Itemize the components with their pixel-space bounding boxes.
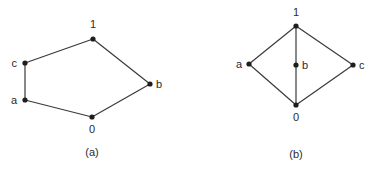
node-label-b: b xyxy=(302,59,308,71)
node-c xyxy=(350,62,355,67)
diagram-a-pentagon-lattice: 1ca0b(a) xyxy=(11,18,162,158)
node-label-b: b xyxy=(156,78,162,90)
node-label-a: a xyxy=(236,58,243,70)
node-label-1: 1 xyxy=(90,18,96,30)
node-0 xyxy=(89,114,94,119)
edge-0-a xyxy=(249,64,296,105)
node-1 xyxy=(90,36,95,41)
node-label-c: c xyxy=(12,57,18,69)
edge-b-0 xyxy=(92,84,150,117)
node-0 xyxy=(293,102,298,107)
edge-0-c xyxy=(296,65,353,105)
lattice-diagrams: 1ca0b(a) 1abc0(b) xyxy=(0,0,377,169)
node-1 xyxy=(293,23,298,28)
node-b xyxy=(147,81,152,86)
node-b xyxy=(293,62,298,67)
diagram-b-diamond-lattice: 1abc0(b) xyxy=(236,6,365,160)
node-label-1: 1 xyxy=(293,6,299,18)
node-label-0: 0 xyxy=(293,111,299,123)
node-label-0: 0 xyxy=(89,123,95,135)
node-a xyxy=(22,97,27,102)
edge-0-a xyxy=(25,100,92,117)
node-label-a: a xyxy=(11,94,18,106)
edge-1-b xyxy=(93,39,150,84)
edge-c-1 xyxy=(25,39,93,63)
node-c xyxy=(22,60,27,65)
node-label-c: c xyxy=(359,59,365,71)
edge-a-1 xyxy=(249,26,296,64)
caption-a: (a) xyxy=(85,146,98,158)
node-a xyxy=(246,61,251,66)
caption-b: (b) xyxy=(289,148,302,160)
